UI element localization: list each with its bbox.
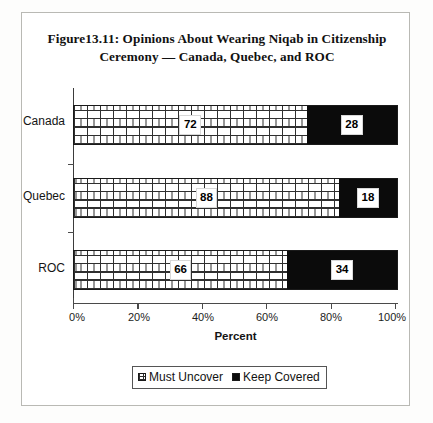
bar-segment-must-uncover: 66 bbox=[74, 251, 287, 289]
y-tick-2 bbox=[68, 232, 74, 233]
legend-item-must-uncover: Must Uncover bbox=[138, 370, 223, 384]
y-tick-1 bbox=[68, 164, 74, 165]
bar-segment-must-uncover: 88 bbox=[74, 179, 339, 217]
data-label-roc-keep-covered: 34 bbox=[331, 260, 353, 281]
x-tick-100 bbox=[395, 303, 396, 309]
bar-segment-must-uncover: 72 bbox=[74, 106, 307, 144]
category-label-roc: ROC bbox=[0, 261, 65, 275]
x-tick-label-60: 60% bbox=[256, 311, 278, 323]
data-label-canada-must-uncover: 72 bbox=[179, 115, 201, 136]
x-tick-20 bbox=[137, 303, 138, 309]
bar-segment-keep-covered: 34 bbox=[287, 251, 397, 289]
data-label-canada-keep-covered: 28 bbox=[341, 115, 363, 136]
scanned-page: Figure13.11: Opinions About Wearing Niqa… bbox=[0, 0, 433, 423]
bar-segment-keep-covered: 28 bbox=[307, 106, 397, 144]
bar-segment-keep-covered: 18 bbox=[339, 179, 397, 217]
x-tick-0 bbox=[73, 298, 74, 309]
x-tick-label-0: 0% bbox=[69, 311, 85, 323]
bar-roc: 66 34 bbox=[73, 250, 398, 290]
x-tick-40 bbox=[202, 303, 203, 309]
data-label-quebec-keep-covered: 18 bbox=[357, 188, 379, 209]
x-tick-80 bbox=[331, 303, 332, 309]
bar-canada: 72 28 bbox=[73, 105, 398, 145]
x-tick-label-80: 80% bbox=[320, 311, 342, 323]
category-label-canada: Canada bbox=[0, 114, 65, 128]
chart-legend: Must Uncover Keep Covered bbox=[132, 366, 327, 389]
x-tick-label-20: 20% bbox=[128, 311, 150, 323]
legend-label-must-uncover: Must Uncover bbox=[149, 370, 223, 384]
data-label-quebec-must-uncover: 88 bbox=[196, 188, 218, 209]
category-label-quebec: Quebec bbox=[0, 189, 65, 203]
x-axis-line bbox=[73, 303, 398, 304]
x-tick-label-100: 100% bbox=[378, 311, 406, 323]
legend-label-keep-covered: Keep Covered bbox=[243, 370, 320, 384]
x-axis-title: Percent bbox=[73, 330, 398, 342]
bar-quebec: 88 18 bbox=[73, 178, 398, 218]
black-swatch-icon bbox=[232, 373, 240, 381]
legend-item-keep-covered: Keep Covered bbox=[232, 370, 320, 384]
x-tick-label-40: 40% bbox=[192, 311, 214, 323]
figure-title: Figure13.11: Opinions About Wearing Niqa… bbox=[31, 30, 403, 65]
brick-swatch-icon bbox=[138, 373, 146, 381]
data-label-roc-must-uncover: 66 bbox=[170, 260, 192, 281]
x-tick-60 bbox=[266, 303, 267, 309]
